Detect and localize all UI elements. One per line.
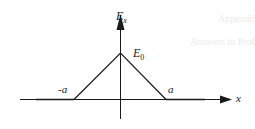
left-root-label: -a bbox=[58, 84, 67, 95]
x-axis-label: x bbox=[236, 93, 241, 104]
right-root-label: a bbox=[168, 84, 174, 95]
peak-label: E0 bbox=[133, 47, 144, 62]
triangle-function-diagram: Appendix Answers to Problems Ex E0 -a a … bbox=[0, 0, 255, 129]
plot-canvas bbox=[0, 0, 255, 129]
x-axis-arrow-icon bbox=[220, 96, 232, 104]
y-axis-label: Ex bbox=[116, 10, 127, 25]
